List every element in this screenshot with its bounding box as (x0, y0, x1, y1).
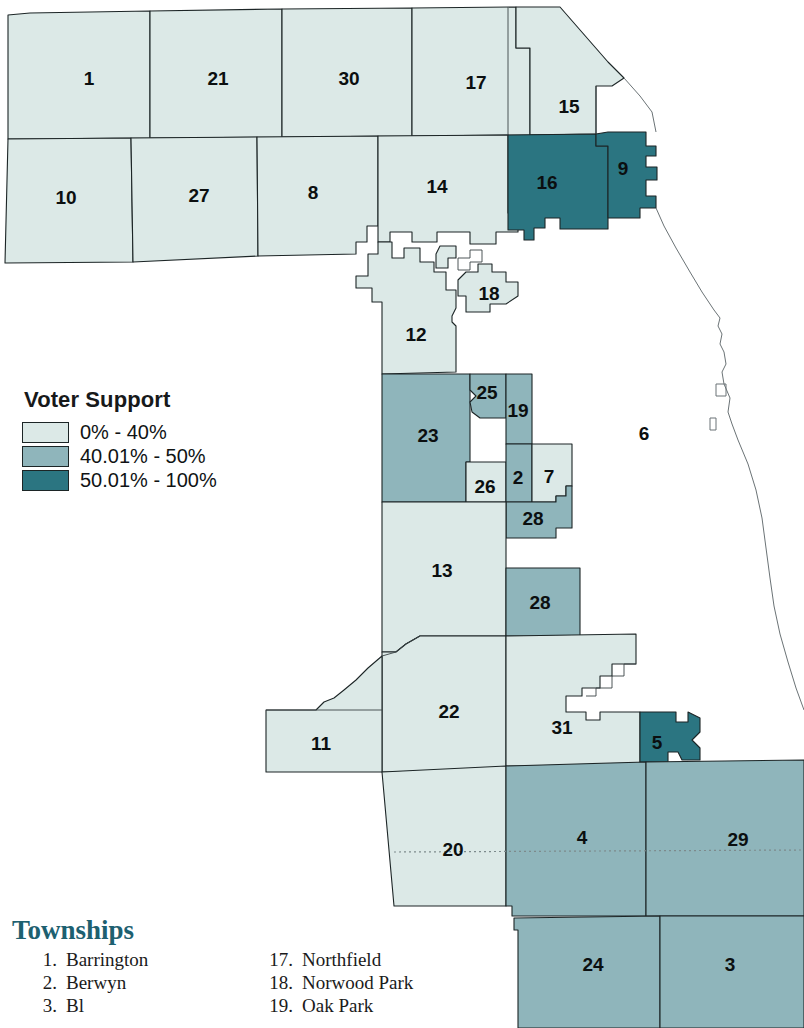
region-label-14: 14 (426, 176, 448, 197)
township-number: 19. (260, 995, 302, 1018)
legend-title: Voter Support (24, 388, 217, 411)
township-number: 3. (24, 995, 66, 1018)
township-number: 1. (24, 949, 66, 972)
township-number: 2. (24, 972, 66, 995)
region-5[interactable] (640, 712, 700, 762)
region-label-25: 25 (476, 382, 498, 403)
township-name: Oak Park (302, 995, 520, 1018)
list-item: 2. Berwyn (24, 972, 256, 995)
region-label-21: 21 (207, 68, 229, 89)
region-label-17: 17 (465, 72, 486, 93)
region-label-18: 18 (478, 283, 499, 304)
township-name: Norwood Park (302, 972, 520, 995)
region-16[interactable] (508, 134, 608, 240)
townships-column-right: 17. Northfield 18. Norwood Park 19. Oak … (256, 949, 520, 1017)
region-label-26: 26 (474, 476, 495, 497)
townships-heading: Townships (12, 916, 526, 944)
legend-swatch-low (22, 422, 69, 443)
legend-label-low: 0% - 40% (80, 422, 167, 442)
region-label-12: 12 (405, 324, 426, 345)
legend-label-mid: 40.01% - 50% (80, 446, 206, 466)
township-number: 18. (260, 972, 302, 995)
region-11[interactable] (266, 656, 382, 772)
region-label-15: 15 (558, 96, 580, 117)
list-item: 1. Barrington (24, 949, 256, 972)
list-item: 3. Bl (24, 995, 256, 1018)
region-label-23: 23 (417, 425, 438, 446)
region-label-11: 11 (311, 733, 332, 754)
region-label-1: 1 (84, 68, 95, 89)
region-label-7: 7 (544, 466, 555, 487)
region-label-16: 16 (536, 172, 557, 193)
region-31[interactable] (506, 634, 640, 772)
list-item: 19. Oak Park (260, 995, 520, 1018)
townships-column-left: 1. Barrington 2. Berwyn 3. Bl (6, 949, 256, 1017)
region-label-29: 29 (727, 829, 748, 850)
townships-legend: Townships 1. Barrington 2. Berwyn 3. Bl (6, 916, 526, 1018)
region-label-24: 24 (582, 954, 604, 975)
region-label-19: 19 (507, 400, 528, 421)
list-item: 18. Norwood Park (260, 972, 520, 995)
region-label-4: 4 (577, 827, 588, 848)
townships-columns: 1. Barrington 2. Berwyn 3. Bl 17. Northf… (6, 949, 526, 1017)
region-label-5: 5 (652, 732, 663, 753)
township-name: Berwyn (66, 972, 256, 995)
legend-swatch-mid (22, 446, 69, 467)
list-item: 17. Northfield (260, 949, 520, 972)
legend-row-low: 0% - 40% (22, 420, 217, 444)
region-29[interactable] (646, 760, 804, 916)
region-label-22: 22 (438, 701, 459, 722)
region-label-30: 30 (338, 68, 359, 89)
voter-support-map: 1 21 30 17 15 10 27 8 14 16 9 18 12 25 1… (0, 0, 804, 1028)
region-label-28b: 28 (529, 592, 550, 613)
region-14[interactable] (378, 135, 518, 244)
region-label-28a: 28 (522, 508, 543, 529)
township-name: Barrington (66, 949, 256, 972)
legend-row-high: 50.01% - 100% (22, 468, 217, 492)
region-label-13: 13 (431, 560, 452, 581)
region-notch-a[interactable] (436, 246, 456, 268)
region-label-27: 27 (188, 185, 209, 206)
region-label-8: 8 (308, 182, 319, 203)
region-label-10: 10 (55, 187, 76, 208)
legend-swatch-high (22, 470, 69, 491)
legend-label-high: 50.01% - 100% (80, 470, 217, 490)
legend-row-mid: 40.01% - 50% (22, 444, 217, 468)
region-label-20: 20 (442, 839, 463, 860)
township-name: Bl (66, 995, 256, 1018)
region-label-31: 31 (551, 717, 573, 738)
township-name: Northfield (302, 949, 520, 972)
map-legend: Voter Support 0% - 40% 40.01% - 50% 50.0… (22, 388, 217, 492)
region-label-9: 9 (618, 158, 629, 179)
region-label-3: 3 (725, 954, 736, 975)
township-number: 17. (260, 949, 302, 972)
region-label-2: 2 (513, 467, 524, 488)
region-20[interactable] (382, 766, 506, 906)
map-svg: 1 21 30 17 15 10 27 8 14 16 9 18 12 25 1… (0, 0, 804, 1028)
lakefront-detail (710, 384, 726, 430)
region-1[interactable] (8, 11, 150, 139)
region-label-6: 6 (639, 423, 650, 444)
